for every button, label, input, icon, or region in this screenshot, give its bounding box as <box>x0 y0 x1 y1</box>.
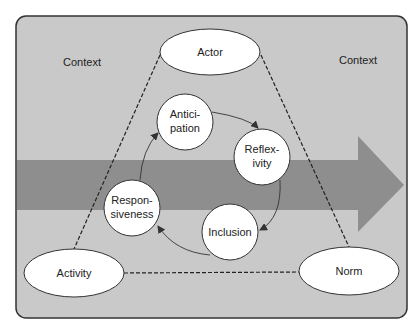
node-norm-label: Norm <box>336 265 363 277</box>
node-reflexivity: Reflex- ivity <box>234 129 290 185</box>
context-label-left: Context <box>63 56 101 68</box>
node-activity: Activity <box>24 249 124 297</box>
node-reflexivity-line1: Reflex- <box>245 143 280 155</box>
context-label-right: Context <box>339 54 377 66</box>
node-responsiveness: Respon- siveness <box>104 180 160 236</box>
node-anticipation-line1: Antici- <box>170 108 201 120</box>
node-anticipation: Antici- pation <box>157 94 213 150</box>
node-reflexivity-line2: ivity <box>253 157 272 169</box>
node-inclusion-label: Inclusion <box>208 226 251 238</box>
node-anticipation-line2: pation <box>170 122 200 134</box>
node-responsiveness-line1: Respon- <box>111 194 153 206</box>
node-norm: Norm <box>299 247 399 295</box>
node-activity-label: Activity <box>57 267 92 279</box>
diagram-canvas: Context Context Actor Activity Norm Anti… <box>0 0 420 331</box>
node-actor: Actor <box>160 29 260 75</box>
node-responsiveness-line2: siveness <box>111 208 154 220</box>
node-inclusion: Inclusion <box>202 204 258 260</box>
node-actor-label: Actor <box>197 46 223 58</box>
